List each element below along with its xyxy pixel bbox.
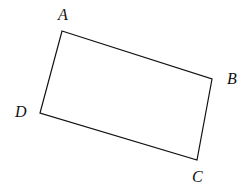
vertex-label-c: C (192, 169, 203, 185)
quadrilateral-svg (0, 0, 249, 193)
vertex-label-d: D (15, 104, 27, 120)
vertex-label-a: A (58, 7, 68, 23)
figure-background (0, 0, 249, 193)
geometry-figure: A B C D (0, 0, 249, 193)
vertex-label-b: B (227, 71, 237, 87)
